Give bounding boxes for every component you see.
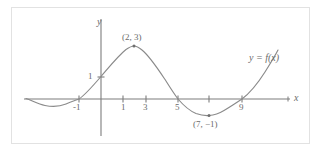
y-tick-label-1: 1 bbox=[88, 72, 93, 81]
function-label: y = f(x) bbox=[249, 53, 279, 63]
x-tick-label-3: 3 bbox=[143, 103, 148, 112]
graph-figure: y x 1 -1 1 3 5 9 (2, 3) (7, −1) y = f(x) bbox=[0, 0, 321, 154]
x-tick-label-9: 9 bbox=[239, 103, 244, 112]
x-tick-label-1: 1 bbox=[121, 103, 126, 112]
x-tick-label--1: -1 bbox=[73, 103, 81, 112]
minimum-point-label: (7, −1) bbox=[193, 120, 218, 129]
x-axis-label: x bbox=[294, 93, 298, 103]
x-tick-label-5: 5 bbox=[175, 103, 180, 112]
graph-plot-area bbox=[0, 0, 321, 154]
min-point-marker bbox=[208, 114, 211, 117]
maximum-point-label: (2, 3) bbox=[122, 33, 142, 42]
max-point-marker bbox=[133, 45, 136, 48]
y-axis-label: y bbox=[97, 17, 101, 27]
